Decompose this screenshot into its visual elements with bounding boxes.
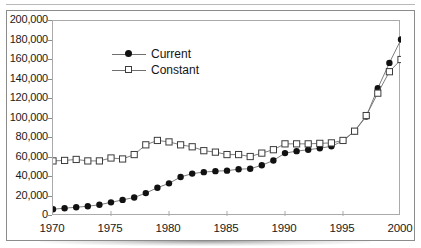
y-axis-tick-mark [47,79,52,80]
chart-figure: 200,000180,000160,000140,000120,000100,0… [0,0,421,248]
chart-legend: Current Constant [112,46,220,78]
x-axis-tick-label: 1985 [204,222,248,234]
y-axis-tick-mark [47,59,52,60]
x-axis-tick-label: 1990 [262,222,306,234]
y-axis-tick-mark [47,215,52,216]
x-axis-tick-label: 1995 [320,222,364,234]
legend-label-constant: Constant [151,63,199,77]
y-axis-tick-mark [47,157,52,158]
y-axis-tick-mark [47,176,52,177]
y-axis-tick-mark [47,196,52,197]
figure-shadow [40,241,370,246]
y-axis-tick-mark [47,137,52,138]
legend-item-current: Current [112,46,220,62]
y-axis-tick-mark [47,118,52,119]
x-axis-tick-labels: 1970197519801985199019952000 [0,0,421,248]
y-axis-tick-mark [47,40,52,41]
filled-circle-marker-icon [112,47,146,61]
open-square-marker-icon [112,63,146,77]
x-axis-tick-label: 1970 [30,222,74,234]
x-axis-tick-label: 1980 [146,222,190,234]
legend-label-current: Current [151,47,191,61]
x-axis-tick-label: 2000 [378,222,421,234]
x-axis-tick-label: 1975 [88,222,132,234]
y-axis-tick-mark [47,20,52,21]
legend-item-constant: Constant [112,62,220,78]
y-axis-tick-mark [47,98,52,99]
